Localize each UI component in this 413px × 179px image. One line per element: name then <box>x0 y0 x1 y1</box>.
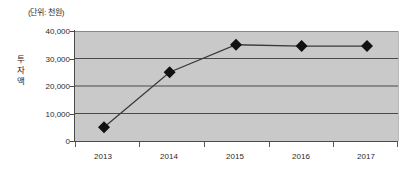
data-point-marker <box>361 40 373 52</box>
investment-line-chart: (단위: 천원) 투 자 액 40,000 30,000 20,000 10,0… <box>0 0 413 179</box>
x-tick-label: 2017 <box>357 152 375 161</box>
x-axis-line <box>74 141 398 142</box>
y-tick-label: 30,000 <box>28 54 70 63</box>
x-tick-mark <box>75 142 76 147</box>
x-tick-label: 2016 <box>292 152 310 161</box>
y-axis-title-char: 투 <box>14 54 28 65</box>
y-axis-title-char: 액 <box>14 76 28 87</box>
y-axis-title-char: 자 <box>14 65 28 76</box>
x-tick-mark <box>333 142 334 147</box>
plot-svg <box>75 31 398 141</box>
plot-area <box>74 31 399 141</box>
y-axis-title: 투 자 액 <box>14 54 28 87</box>
y-tick-label: 40,000 <box>28 27 70 36</box>
x-tick-label: 2015 <box>226 152 244 161</box>
x-tick-mark <box>139 142 140 147</box>
x-tick-label: 2013 <box>94 152 112 161</box>
x-tick-mark <box>204 142 205 147</box>
y-axis-tick-labels: 40,000 30,000 20,000 10,000 0 <box>28 24 70 146</box>
data-point-marker <box>296 40 308 52</box>
y-tick-label: 20,000 <box>28 82 70 91</box>
data-point-marker <box>230 39 242 51</box>
y-tick-label: 10,000 <box>28 109 70 118</box>
x-tick-mark <box>269 142 270 147</box>
x-tick-mark <box>397 142 398 147</box>
y-tick-label: 0 <box>28 137 70 146</box>
x-tick-label: 2014 <box>160 152 178 161</box>
unit-note-label: (단위: 천원) <box>28 6 64 17</box>
y-axis-line <box>74 30 75 142</box>
